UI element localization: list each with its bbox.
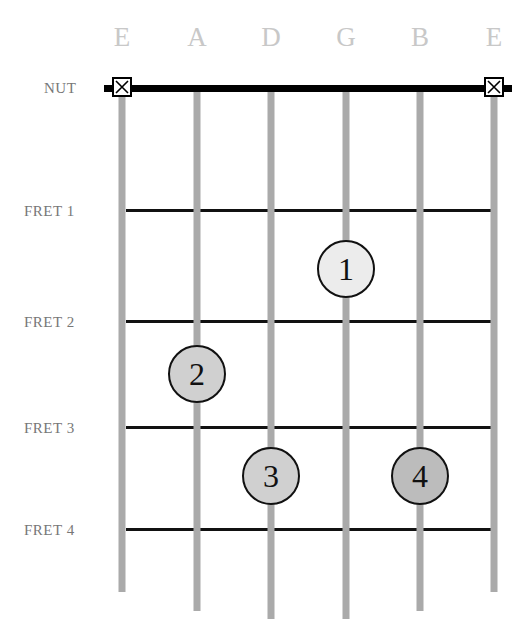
string-high-e — [491, 92, 498, 592]
string-d — [268, 92, 275, 619]
finger-marker-3: 3 — [242, 447, 300, 505]
finger-marker-2: 2 — [168, 345, 226, 403]
muted-x-icon-low-e — [112, 77, 132, 97]
string-name-b: B — [400, 22, 440, 53]
string-name-high-e: E — [474, 22, 514, 53]
fret-label-1: FRET 1 — [24, 203, 75, 220]
nut-label: NUT — [44, 80, 76, 97]
fret-label-2: FRET 2 — [24, 314, 75, 331]
string-name-d: D — [251, 22, 291, 53]
finger-marker-4: 4 — [391, 447, 449, 505]
finger-marker-1: 1 — [317, 240, 375, 298]
nut-bar — [104, 85, 512, 92]
fret-line-1 — [126, 209, 492, 212]
muted-x-icon-high-e — [484, 77, 504, 97]
string-low-e — [119, 92, 126, 592]
fret-label-3: FRET 3 — [24, 420, 75, 437]
fret-line-3 — [126, 426, 492, 429]
fret-line-2 — [126, 320, 492, 323]
string-name-g: G — [326, 22, 366, 53]
string-b — [417, 92, 424, 611]
fret-label-4: FRET 4 — [24, 522, 75, 539]
string-name-a: A — [177, 22, 217, 53]
string-g — [343, 92, 350, 619]
string-name-low-e: E — [102, 22, 142, 53]
fret-line-4 — [126, 528, 492, 531]
